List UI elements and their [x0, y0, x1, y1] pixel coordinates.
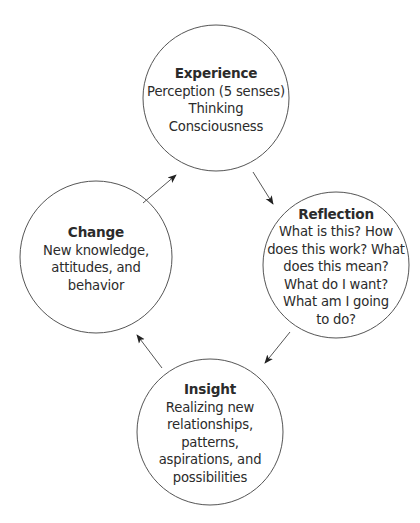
arrow-change-to-experience — [143, 175, 176, 203]
arrow-reflection-to-insight — [265, 332, 290, 363]
node-line: does this mean? — [266, 258, 406, 276]
node-line: behavior — [23, 277, 169, 295]
node-line: attitudes, and — [23, 259, 169, 277]
arrow-experience-to-reflection — [253, 172, 273, 204]
node-line: Thinking — [146, 100, 286, 118]
node-line: Consciousness — [146, 118, 286, 136]
node-line: What is this? How — [266, 223, 406, 241]
node-line: possibilities — [140, 469, 280, 487]
node-line: to do? — [266, 311, 406, 329]
node-title-reflection: Reflection — [266, 206, 406, 224]
node-line: Realizing new — [140, 399, 280, 417]
node-title-experience: Experience — [146, 65, 286, 83]
node-insight: Insight Realizing new relationships, pat… — [140, 381, 280, 487]
node-title-insight: Insight — [140, 381, 280, 399]
node-line: New knowledge, — [23, 242, 169, 260]
node-line: patterns, — [140, 434, 280, 452]
arrow-insight-to-change — [137, 335, 162, 368]
node-line: does this work? What — [266, 241, 406, 259]
node-line: What do I want? — [266, 276, 406, 294]
node-line: relationships, — [140, 416, 280, 434]
node-line: aspirations, and — [140, 451, 280, 469]
node-line: Perception (5 senses) — [146, 83, 286, 101]
node-line: What am I going — [266, 293, 406, 311]
node-experience: Experience Perception (5 senses) Thinkin… — [146, 65, 286, 135]
node-reflection: Reflection What is this? How does this w… — [266, 206, 406, 329]
node-change: Change New knowledge, attitudes, and beh… — [23, 224, 169, 294]
node-title-change: Change — [23, 224, 169, 242]
